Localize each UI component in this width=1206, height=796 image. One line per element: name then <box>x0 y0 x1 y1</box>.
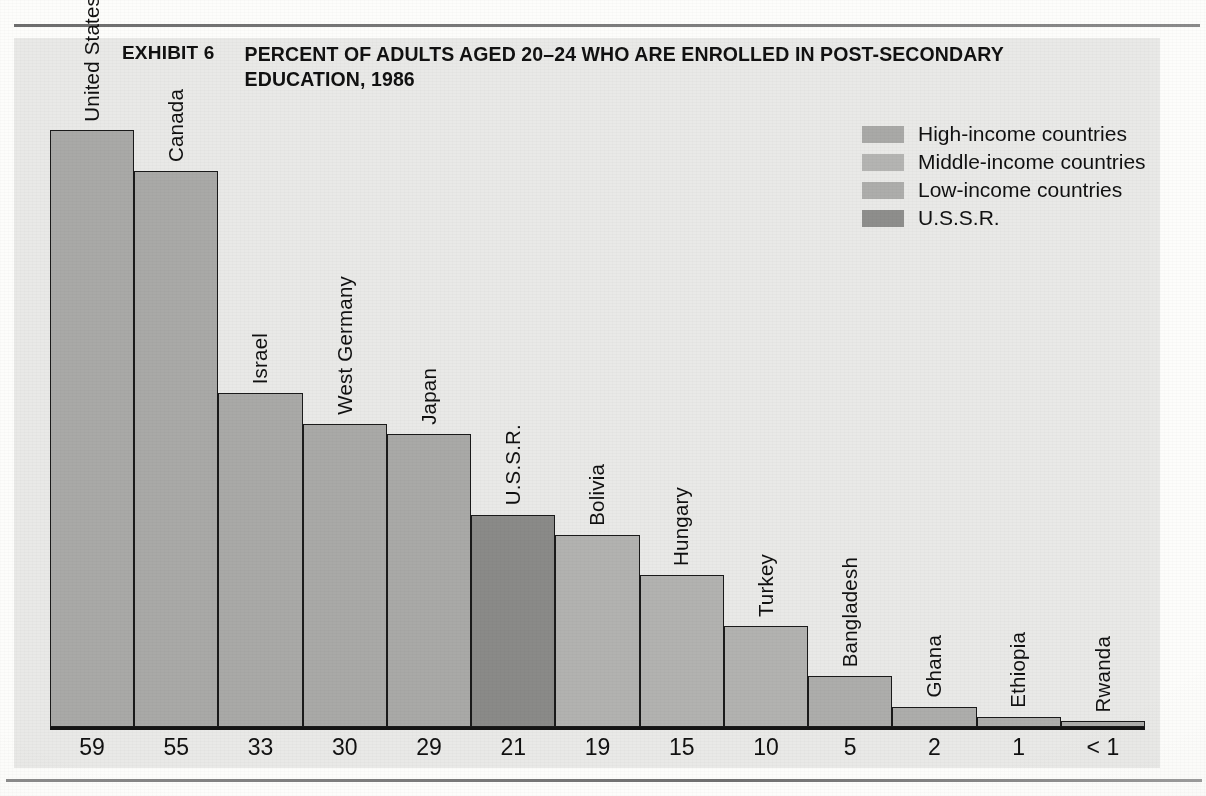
bar-rect <box>724 626 808 727</box>
bar-rect <box>50 130 134 727</box>
bar-column: Rwanda <box>1061 100 1145 727</box>
bar-rect <box>640 575 724 727</box>
bar-value-label: 30 <box>303 734 387 761</box>
bar-value-label: 19 <box>555 734 639 761</box>
bar-category-label: United States <box>82 0 103 121</box>
bar-category-label: West Germany <box>335 276 356 415</box>
bar-value-label: 10 <box>724 734 808 761</box>
page-title: PERCENT OF ADULTS AGED 20–24 WHO ARE ENR… <box>245 42 1045 93</box>
chart-plot-area: United StatesCanadaIsraelWest GermanyJap… <box>50 100 1145 740</box>
bar-column: Ethiopia <box>977 100 1061 727</box>
bar-column: United States <box>50 100 134 727</box>
exhibit-number: EXHIBIT 6 <box>122 42 245 64</box>
x-axis-tick-labels: 595533302921191510521< 1 <box>50 734 1145 774</box>
bar-column: Japan <box>387 100 471 727</box>
bar-column: West Germany <box>303 100 387 727</box>
bar-value-label: 29 <box>387 734 471 761</box>
bar-value-label: 59 <box>50 734 134 761</box>
exhibit-header: EXHIBIT 6 PERCENT OF ADULTS AGED 20–24 W… <box>122 42 1142 93</box>
bar-category-label: Israel <box>250 333 271 384</box>
bar-rect <box>977 717 1061 727</box>
x-axis-line <box>50 727 1145 730</box>
bar-category-label: Bangladesh <box>840 557 861 667</box>
bar-rect <box>218 393 302 727</box>
bar-value-label: 21 <box>471 734 555 761</box>
bar-category-label: Hungary <box>671 487 692 566</box>
bar-column: Ghana <box>892 100 976 727</box>
bar-value-label: 15 <box>640 734 724 761</box>
bar-column: Israel <box>218 100 302 727</box>
bar-value-label: 1 <box>977 734 1061 761</box>
bar-value-label: 2 <box>892 734 976 761</box>
bar-rect <box>387 434 471 727</box>
bar-rect <box>471 515 555 727</box>
bar-value-label: 55 <box>134 734 218 761</box>
bar-column: U.S.S.R. <box>471 100 555 727</box>
bar-category-label: Rwanda <box>1093 636 1114 712</box>
bar-column: Turkey <box>724 100 808 727</box>
bar-rect <box>555 535 639 727</box>
bar-category-label: U.S.S.R. <box>503 424 524 505</box>
bar-category-label: Turkey <box>756 554 777 617</box>
page-rule-bottom <box>6 779 1202 782</box>
bar-rect <box>892 707 976 727</box>
bar-rect <box>134 171 218 727</box>
bar-category-label: Ghana <box>924 635 945 698</box>
bar-column: Canada <box>134 100 218 727</box>
bar-column: Bangladesh <box>808 100 892 727</box>
bar-value-label: 5 <box>808 734 892 761</box>
bar-category-label: Japan <box>419 368 440 425</box>
bar-category-label: Ethiopia <box>1008 632 1029 708</box>
bar-value-label: 33 <box>218 734 302 761</box>
bar-rect <box>303 424 387 727</box>
page-rule-top <box>14 24 1200 27</box>
bar-category-label: Canada <box>166 89 187 162</box>
bar-category-label: Bolivia <box>587 464 608 526</box>
bar-rect <box>808 676 892 727</box>
bar-series: United StatesCanadaIsraelWest GermanyJap… <box>50 100 1145 727</box>
bar-column: Bolivia <box>555 100 639 727</box>
bar-column: Hungary <box>640 100 724 727</box>
bar-value-label: < 1 <box>1061 734 1145 761</box>
scanned-page: EXHIBIT 6 PERCENT OF ADULTS AGED 20–24 W… <box>0 0 1206 796</box>
